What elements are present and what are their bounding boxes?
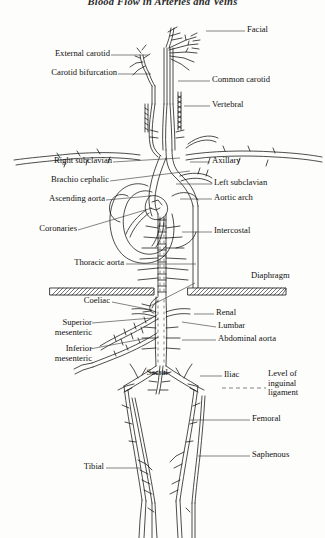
ascending-aorta-vessels bbox=[149, 156, 166, 216]
vertebral-vessel bbox=[178, 92, 181, 130]
intercostal-vessels bbox=[138, 226, 188, 280]
label-axillary: Axillary bbox=[212, 156, 241, 166]
right-leg-vessels bbox=[170, 386, 205, 538]
left-vertebral-vessel bbox=[145, 104, 148, 132]
label-iliac: Iliac bbox=[224, 370, 239, 380]
label-ascending-aorta: Ascending aorta bbox=[18, 194, 105, 204]
diaphragm-left-bar bbox=[50, 288, 154, 295]
label-left-subclavian: Left subclavian bbox=[214, 178, 267, 188]
pulmonary-vessels bbox=[180, 168, 212, 183]
left-subclavian-axillary-vessels bbox=[186, 136, 322, 166]
label-sacral: Sacral bbox=[118, 368, 168, 378]
label-external-carotid: External carotid bbox=[35, 49, 110, 59]
label-coronaries: Coronaries bbox=[18, 224, 77, 234]
diaphragm-right-bar bbox=[188, 288, 286, 295]
superior-mesenteric-vessels bbox=[100, 315, 158, 350]
label-lumbar: Lumbar bbox=[218, 321, 245, 331]
leader-lines bbox=[78, 31, 266, 468]
carotid-bifurcation-vessels bbox=[146, 73, 155, 104]
label-vertebral: Vertebral bbox=[212, 100, 244, 110]
left-leg-vessels bbox=[122, 386, 157, 538]
label-carotid-bifurcation: Carotid bifurcation bbox=[16, 68, 117, 78]
label-tibial: Tibial bbox=[68, 462, 104, 472]
label-thoracic-aorta: Thoracic aorta bbox=[48, 258, 124, 268]
label-renal: Renal bbox=[216, 308, 236, 318]
label-coeliac: Coeliac bbox=[62, 296, 110, 306]
label-superior-mesenteric: Superior mesenteric bbox=[34, 318, 92, 337]
external-carotid-vessels bbox=[130, 45, 150, 75]
label-aortic-arch: Aortic arch bbox=[214, 193, 253, 203]
aortic-arch-vessels bbox=[166, 150, 198, 290]
label-diaphragm: Diaphragm bbox=[251, 271, 290, 281]
label-intercostal: Intercostal bbox=[214, 226, 250, 236]
label-inferior-mesenteric: Inferior mesenteric bbox=[34, 344, 92, 363]
label-level-of-inguinal-ligament: Level of inguinal ligament bbox=[268, 369, 324, 398]
abdominal-aorta-vessels bbox=[155, 297, 167, 366]
label-femoral: Femoral bbox=[252, 414, 281, 424]
figure-container: Blood Flow in Arteries and Veins bbox=[0, 0, 325, 538]
label-brachio-cephalic: Brachio cephalic bbox=[16, 175, 109, 185]
label-abdominal-aorta: Abdominal aorta bbox=[218, 334, 276, 344]
heart-outline bbox=[109, 184, 198, 264]
label-common-carotid: Common carotid bbox=[212, 75, 270, 85]
renal-vessels bbox=[132, 309, 190, 317]
label-right-subclavian: Right subclavian bbox=[20, 156, 112, 166]
label-facial: Facial bbox=[247, 25, 268, 35]
head-neck-vessels bbox=[166, 27, 200, 70]
label-saphenous: Saphenous bbox=[252, 450, 289, 460]
